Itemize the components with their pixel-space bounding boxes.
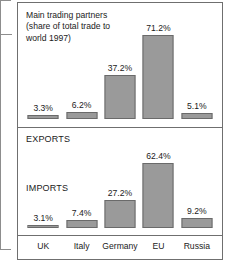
bar-slot: 7.4% — [62, 128, 100, 235]
axis-label-germany: Germany — [102, 241, 137, 251]
chart-container: Main trading partners (share of total tr… — [17, 2, 223, 260]
exports-panel: Main trading partners (share of total tr… — [18, 3, 222, 127]
bar-slot: 71.2% — [139, 3, 177, 127]
bar-imports-uk — [28, 225, 59, 228]
bar-slot: 62.4% — [139, 128, 177, 235]
imports-plot-area: 3.1%7.4%27.2%62.4%9.2% — [18, 128, 222, 235]
bar-value-label: 37.2% — [108, 63, 132, 73]
bar-slot: 27.2% — [101, 128, 139, 235]
bar-exports-germany — [104, 75, 135, 119]
x-axis: UKItalyGermanyEURussia — [18, 235, 222, 259]
adjacent-frame-fragment — [0, 0, 11, 250]
bar-slot: 37.2% — [101, 3, 139, 127]
bar-imports-eu — [143, 163, 174, 228]
imports-panel: EXPORTS IMPORTS 3.1%7.4%27.2%62.4%9.2% — [18, 127, 222, 235]
bar-exports-italy — [66, 112, 97, 119]
bar-exports-eu — [143, 35, 174, 119]
bar-slot: 5.1% — [178, 3, 216, 127]
bar-slot: 9.2% — [178, 128, 216, 235]
adjacent-frame-divider — [1, 34, 12, 35]
bar-value-label: 62.4% — [146, 151, 170, 161]
bar-exports-uk — [28, 115, 59, 119]
bar-value-label: 6.2% — [72, 100, 92, 110]
bar-imports-russia — [181, 218, 212, 228]
bar-exports-russia — [181, 113, 212, 119]
bar-value-label: 3.1% — [33, 213, 53, 223]
axis-label-russia: Russia — [184, 241, 210, 251]
bar-value-label: 27.2% — [108, 188, 132, 198]
bar-slot: 3.1% — [24, 128, 62, 235]
bar-slot: 6.2% — [62, 3, 100, 127]
bar-slot: 3.3% — [24, 3, 62, 127]
axis-label-italy: Italy — [74, 241, 90, 251]
exports-plot-area: 3.3%6.2%37.2%71.2%5.1% — [18, 3, 222, 127]
bar-value-label: 7.4% — [72, 208, 92, 218]
axis-label-eu: EU — [152, 241, 164, 251]
bar-value-label: 71.2% — [146, 23, 170, 33]
axis-label-uk: UK — [37, 241, 49, 251]
bar-imports-germany — [104, 200, 135, 228]
bar-value-label: 9.2% — [187, 206, 207, 216]
bar-value-label: 3.3% — [33, 103, 53, 113]
bar-imports-italy — [66, 220, 97, 228]
bar-value-label: 5.1% — [187, 101, 207, 111]
